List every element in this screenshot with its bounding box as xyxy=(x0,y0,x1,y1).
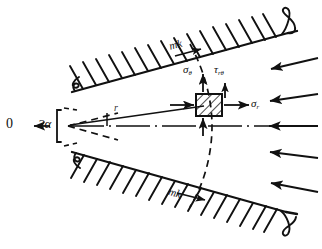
upper-die-wall xyxy=(70,8,297,92)
sigma-theta-label: σθ xyxy=(183,64,192,76)
sigma-theta-subscript: θ xyxy=(188,69,191,76)
sigma-r-label: σr xyxy=(251,98,259,110)
figure-canvas: 0 2α r mk mk σθ τrθ σr xyxy=(0,0,322,249)
material-flow-arrow xyxy=(270,152,318,158)
sigma-r-subscript: r xyxy=(256,103,259,110)
material-flow-arrow xyxy=(271,183,318,192)
material-flow-arrow xyxy=(270,94,318,101)
die-angle-label: 2α xyxy=(38,117,51,130)
material-flow-arrow xyxy=(271,58,318,69)
material-flow-arrows xyxy=(269,58,318,192)
radius-label: r xyxy=(114,103,118,113)
die-angle-bracket xyxy=(57,110,61,142)
tau-rtheta-label: τrθ xyxy=(214,64,224,76)
hatched-stress-element xyxy=(196,94,222,116)
origin-label: 0 xyxy=(6,117,13,131)
tau-rtheta-subscript: rθ xyxy=(218,69,224,76)
radial-line-r xyxy=(70,106,204,126)
